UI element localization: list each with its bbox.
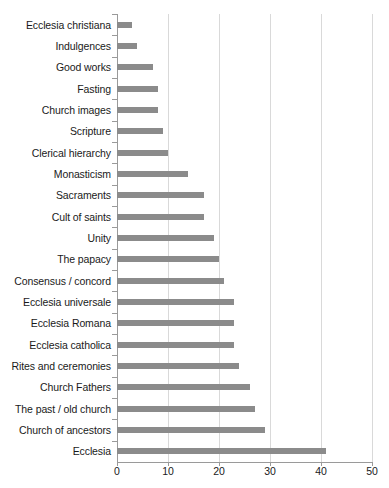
bar bbox=[117, 256, 219, 262]
chart-row: Ecclesia universale bbox=[0, 291, 389, 312]
bar bbox=[117, 214, 204, 220]
bar bbox=[117, 278, 224, 284]
y-axis-tick bbox=[112, 99, 117, 100]
y-axis-tick bbox=[112, 35, 117, 36]
x-axis-tick-mark bbox=[168, 462, 169, 466]
x-axis-tick-mark bbox=[117, 462, 118, 466]
y-axis-tick bbox=[112, 419, 117, 420]
x-axis-tick-label: 0 bbox=[114, 465, 120, 477]
category-label: Ecclesia bbox=[73, 445, 111, 457]
chart-row: Consensus / concord bbox=[0, 270, 389, 291]
y-axis-tick bbox=[112, 121, 117, 122]
chart-row: Church Fathers bbox=[0, 377, 389, 398]
chart-rows: Ecclesia christianaIndulgencesGood works… bbox=[0, 14, 389, 462]
chart-row: Church images bbox=[0, 99, 389, 120]
bar bbox=[117, 448, 326, 454]
category-label: Sacraments bbox=[56, 189, 111, 201]
category-label: Unity bbox=[88, 232, 111, 244]
bar bbox=[117, 363, 239, 369]
bar bbox=[117, 384, 250, 390]
chart-row: Ecclesia christiana bbox=[0, 14, 389, 35]
bar bbox=[117, 235, 214, 241]
category-label: Good works bbox=[56, 61, 111, 73]
chart-row: Scripture bbox=[0, 121, 389, 142]
bar bbox=[117, 342, 234, 348]
bar-chart: Ecclesia christianaIndulgencesGood works… bbox=[0, 0, 389, 488]
y-axis-tick bbox=[112, 185, 117, 186]
y-axis-tick bbox=[112, 14, 117, 15]
chart-row: The papacy bbox=[0, 249, 389, 270]
y-axis-tick bbox=[112, 313, 117, 314]
bar bbox=[117, 171, 188, 177]
x-axis-tick-label: 30 bbox=[264, 465, 276, 477]
bar bbox=[117, 406, 255, 412]
category-label: Clerical hierarchy bbox=[32, 147, 111, 159]
bar bbox=[117, 43, 137, 49]
category-label: Scripture bbox=[70, 125, 111, 137]
bar bbox=[117, 128, 163, 134]
chart-row: Fasting bbox=[0, 78, 389, 99]
chart-row: Unity bbox=[0, 227, 389, 248]
x-axis-tick-mark bbox=[270, 462, 271, 466]
y-axis-tick bbox=[112, 249, 117, 250]
x-axis-tick-label: 40 bbox=[315, 465, 327, 477]
chart-row: Good works bbox=[0, 57, 389, 78]
bar bbox=[117, 320, 234, 326]
x-axis-tick-mark bbox=[219, 462, 220, 466]
bar bbox=[117, 107, 158, 113]
category-label: Rites and ceremonies bbox=[11, 360, 111, 372]
chart-row: Monasticism bbox=[0, 163, 389, 184]
y-axis-tick bbox=[112, 441, 117, 442]
bar bbox=[117, 86, 158, 92]
bar bbox=[117, 192, 204, 198]
category-label: Indulgences bbox=[55, 40, 111, 52]
category-label: Ecclesia universale bbox=[23, 296, 111, 308]
x-axis-line bbox=[117, 462, 373, 463]
category-label: Fasting bbox=[77, 83, 111, 95]
chart-row: Ecclesia catholica bbox=[0, 334, 389, 355]
chart-row: Rites and ceremonies bbox=[0, 355, 389, 376]
category-label: Ecclesia Romana bbox=[31, 317, 111, 329]
category-label: Consensus / concord bbox=[14, 275, 111, 287]
chart-row: The past / old church bbox=[0, 398, 389, 419]
chart-row: Ecclesia bbox=[0, 441, 389, 462]
chart-row: Clerical hierarchy bbox=[0, 142, 389, 163]
y-axis-tick bbox=[112, 291, 117, 292]
y-axis-tick bbox=[112, 377, 117, 378]
y-axis-tick bbox=[112, 163, 117, 164]
y-axis-tick bbox=[112, 57, 117, 58]
category-label: Cult of saints bbox=[52, 211, 111, 223]
x-axis-tick-labels: 01020304050 bbox=[0, 465, 389, 485]
chart-row: Cult of saints bbox=[0, 206, 389, 227]
category-label: Ecclesia catholica bbox=[29, 339, 111, 351]
chart-row: Sacraments bbox=[0, 185, 389, 206]
chart-row: Indulgences bbox=[0, 35, 389, 56]
x-axis-tick-label: 50 bbox=[366, 465, 378, 477]
category-label: Church of ancestors bbox=[19, 424, 111, 436]
x-axis-tick-mark bbox=[321, 462, 322, 466]
bar bbox=[117, 64, 153, 70]
chart-row: Church of ancestors bbox=[0, 419, 389, 440]
category-label: Church Fathers bbox=[40, 381, 111, 393]
y-axis-tick bbox=[112, 398, 117, 399]
x-axis-tick-label: 10 bbox=[162, 465, 174, 477]
y-axis-tick bbox=[112, 142, 117, 143]
chart-row: Ecclesia Romana bbox=[0, 313, 389, 334]
y-axis-tick bbox=[112, 227, 117, 228]
category-label: The past / old church bbox=[15, 403, 111, 415]
category-label: Church images bbox=[42, 104, 111, 116]
category-label: The papacy bbox=[57, 253, 111, 265]
bar bbox=[117, 299, 234, 305]
x-axis-tick-mark bbox=[372, 462, 373, 466]
category-label: Monasticism bbox=[54, 168, 111, 180]
category-label: Ecclesia christiana bbox=[26, 19, 111, 31]
bar bbox=[117, 150, 168, 156]
bar bbox=[117, 427, 265, 433]
y-axis-tick bbox=[112, 355, 117, 356]
y-axis-tick bbox=[112, 334, 117, 335]
y-axis-tick bbox=[112, 78, 117, 79]
bar bbox=[117, 22, 132, 28]
y-axis-tick bbox=[112, 270, 117, 271]
x-axis-tick-label: 20 bbox=[213, 465, 225, 477]
y-axis-tick bbox=[112, 206, 117, 207]
